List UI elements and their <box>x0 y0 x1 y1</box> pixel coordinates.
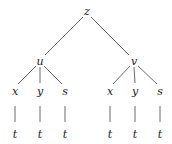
node-t-6: t <box>158 129 162 140</box>
edge-v-y <box>134 67 135 83</box>
node-v-s: s <box>157 86 163 97</box>
edge-z-u <box>45 17 83 55</box>
node-u-y: y <box>37 86 43 97</box>
edge-v-s <box>138 66 157 84</box>
node-t-1: t <box>13 129 17 140</box>
edge-u-x <box>18 66 36 84</box>
edge-v-x <box>113 66 130 84</box>
edge-u-s <box>44 66 62 84</box>
node-u-x: x <box>12 86 18 97</box>
node-t-2: t <box>38 129 42 140</box>
node-z: z <box>84 6 90 17</box>
node-t-3: t <box>63 129 67 140</box>
node-v: v <box>131 56 137 67</box>
tree-edges <box>0 0 172 144</box>
node-v-y: y <box>132 86 138 97</box>
node-t-4: t <box>108 129 112 140</box>
node-t-5: t <box>133 129 137 140</box>
node-u-s: s <box>62 86 68 97</box>
edge-z-v <box>91 17 129 55</box>
node-v-x: x <box>107 86 113 97</box>
node-u: u <box>36 56 43 67</box>
